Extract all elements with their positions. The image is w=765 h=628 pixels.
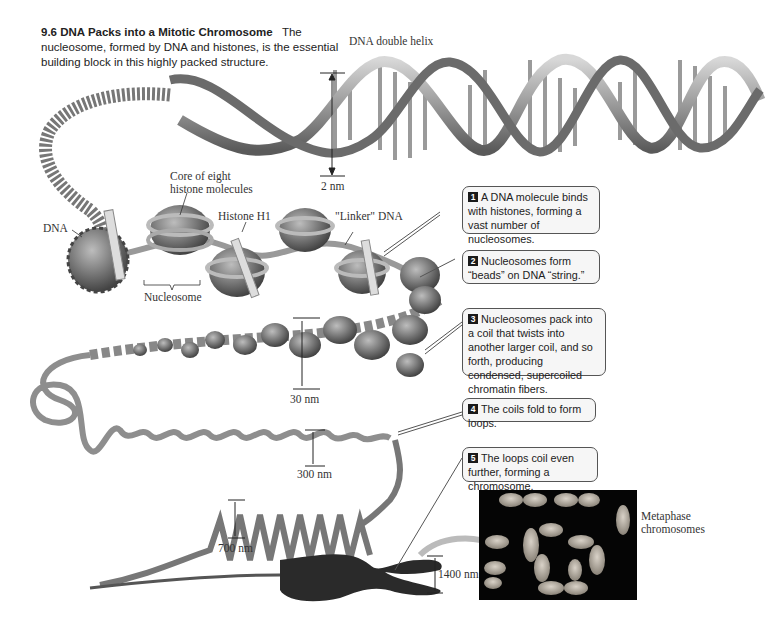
- label-700nm: 700 nm: [218, 542, 253, 555]
- step-number-badge: 2: [468, 256, 478, 266]
- dna-double-helix: [170, 59, 760, 160]
- label-histone-h1: Histone H1: [218, 210, 271, 223]
- callout-step-3: 3Nucleosomes pack into a coil that twist…: [462, 308, 606, 376]
- callout-step-4: 4The coils fold to form loops.: [462, 398, 596, 422]
- step-number-badge: 1: [468, 192, 478, 202]
- label-nucleosome: Nucleosome: [144, 291, 201, 304]
- label-linker-dna: "Linker" DNA: [335, 210, 403, 223]
- label-dna-double-helix: DNA double helix: [349, 35, 433, 48]
- metaphase-chromosomes-micrograph: [479, 490, 637, 600]
- label-300nm: 300 nm: [297, 468, 332, 481]
- 30nm-chromatin-fiber: [90, 286, 441, 377]
- mitotic-chromosome: [90, 554, 442, 601]
- callout-text: Nucleosomes form “beads” on DNA “string.…: [468, 255, 584, 281]
- label-metaphase-line2: chromosomes: [641, 523, 705, 536]
- label-metaphase-line1: Metaphase: [641, 510, 691, 523]
- step-number-badge: 5: [468, 453, 478, 463]
- callout-step-1: 1A DNA molecule binds with histones, for…: [462, 186, 600, 234]
- callout-step-2: 2Nucleosomes form “beads” on DNA “string…: [462, 250, 600, 284]
- label-core-line2: histone molecules: [170, 183, 253, 196]
- callout-step-5: 5The loops coil even further, forming a …: [462, 447, 598, 482]
- label-1400nm: 1400 nm: [438, 568, 479, 581]
- label-dna: DNA: [43, 222, 68, 235]
- step-number-badge: 3: [468, 314, 478, 324]
- step-number-badge: 4: [468, 404, 478, 414]
- label-30nm: 30 nm: [290, 393, 319, 406]
- label-core-line1: Core of eight: [170, 170, 231, 183]
- label-2nm: 2 nm: [321, 180, 344, 193]
